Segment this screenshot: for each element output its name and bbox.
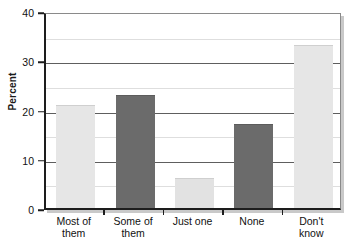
x-axis-label-0: Most ofthem [44, 215, 103, 239]
x-axis-label-3: None [222, 215, 281, 227]
bar-0 [56, 105, 95, 208]
bar-3 [234, 124, 273, 208]
y-tick-label: 40 [6, 7, 34, 19]
x-axis-label-line: them [44, 227, 103, 239]
y-tick-mark [38, 12, 44, 14]
x-axis-label-line: Some of [103, 215, 162, 227]
x-axis-label-line: Don't [282, 215, 341, 227]
y-tick-mark [38, 111, 44, 113]
x-axis-label-line: None [222, 215, 281, 227]
plot-shadow-right [341, 16, 344, 212]
y-tick-mark [38, 160, 44, 162]
plot-area [44, 13, 341, 210]
x-axis-label-2: Just one [163, 215, 222, 227]
gridline-minor [46, 39, 340, 40]
y-tick-mark [38, 62, 44, 64]
y-tick-mark [38, 209, 44, 211]
x-axis-label-line: Just one [163, 215, 222, 227]
y-tick-label: 10 [6, 155, 34, 167]
x-axis-label-4: Don'tknow [282, 215, 341, 239]
bar-2 [175, 178, 214, 208]
x-axis-label-line: them [103, 227, 162, 239]
x-axis-label-line: Most of [44, 215, 103, 227]
y-tick-label: 20 [6, 106, 34, 118]
y-tick-label: 0 [6, 204, 34, 216]
bar-chart: Percent 010203040 Most ofthemSome ofthem… [0, 0, 359, 245]
bar-1 [116, 95, 155, 208]
y-tick-label: 30 [6, 56, 34, 68]
plot-shadow-bottom [47, 210, 344, 213]
x-axis-label-1: Some ofthem [103, 215, 162, 239]
bar-4 [294, 45, 333, 208]
x-axis-label-line: know [282, 227, 341, 239]
